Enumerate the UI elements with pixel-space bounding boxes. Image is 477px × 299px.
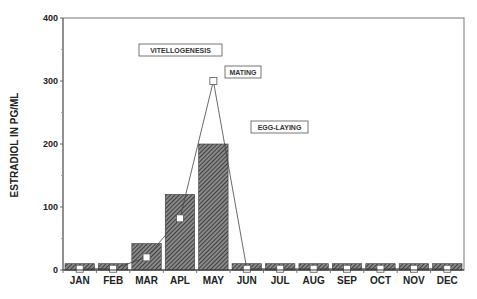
annotation-mating: MATING	[225, 66, 261, 78]
annotation-text: VITELLOGENESIS	[150, 47, 211, 54]
bar-may	[199, 144, 228, 270]
x-tick-label-feb: FEB	[103, 275, 123, 286]
marker-apl	[176, 215, 183, 222]
annotation-text: MATING	[229, 69, 257, 76]
bar-apl	[165, 194, 194, 270]
y-tick-label: 400	[43, 13, 58, 23]
x-tick-label-jun: JUN	[237, 275, 257, 286]
marker-mar	[143, 254, 150, 261]
x-tick-label-jul: JUL	[271, 275, 290, 286]
marker-aug	[310, 265, 317, 272]
marker-oct	[377, 265, 384, 272]
marker-jul	[277, 265, 284, 272]
x-tick-label-may: MAY	[203, 275, 225, 286]
annotation-vitellogenesis: VITELLOGENESIS	[139, 44, 222, 56]
annotation-egg-laying: EGG-LAYING	[251, 121, 308, 133]
marker-may	[210, 78, 217, 85]
plot-frame	[63, 18, 464, 270]
estradiol-chart: 0100200300400JANFEBMARAPLMAYJUNJULAUGSEP…	[0, 0, 477, 299]
x-tick-label-apl: APL	[170, 275, 190, 286]
marker-sep	[344, 265, 351, 272]
line-series	[76, 78, 451, 273]
marker-jun	[243, 265, 250, 272]
annotation-text: EGG-LAYING	[258, 124, 302, 131]
y-tick-label: 300	[43, 76, 58, 86]
bar-series	[65, 144, 462, 270]
x-tick-label-sep: SEP	[337, 275, 357, 286]
y-tick-label: 100	[43, 202, 58, 212]
annotations: VITELLOGENESISMATINGEGG-LAYING	[139, 44, 308, 133]
y-axis-label: ESTRADIOL IN PG/ML	[9, 93, 20, 198]
y-tick-label: 0	[53, 265, 58, 275]
plot-border	[63, 18, 464, 270]
x-tick-label-aug: AUG	[303, 275, 325, 286]
x-tick-label-dec: DEC	[437, 275, 458, 286]
marker-jan	[76, 265, 83, 272]
marker-nov	[410, 265, 417, 272]
axes: 0100200300400JANFEBMARAPLMAYJUNJULAUGSEP…	[43, 13, 464, 286]
x-tick-label-mar: MAR	[135, 275, 159, 286]
x-tick-label-jan: JAN	[70, 275, 90, 286]
x-tick-label-nov: NOV	[403, 275, 425, 286]
x-tick-label-oct: OCT	[370, 275, 391, 286]
y-tick-label: 200	[43, 139, 58, 149]
line-path	[80, 81, 448, 269]
marker-dec	[444, 265, 451, 272]
marker-feb	[110, 265, 117, 272]
